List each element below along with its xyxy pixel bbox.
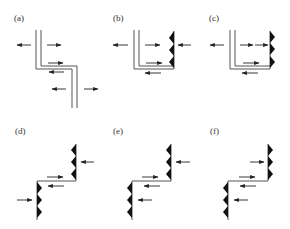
- shear-arrows: [17, 45, 98, 89]
- panel-label-f: (f): [210, 126, 219, 136]
- panel-d: (d): [15, 126, 94, 220]
- panel-label-e: (e): [113, 126, 123, 136]
- fault-step-diagram: (a) (b): [0, 0, 290, 229]
- panel-a: (a): [14, 13, 98, 108]
- step-boundary: [132, 144, 171, 220]
- sawtooth-teeth: [270, 31, 275, 68]
- panel-label-a: (a): [14, 13, 24, 23]
- panel-c: (c): [209, 13, 275, 73]
- panel-label-b: (b): [113, 13, 124, 23]
- panel-e: (e): [113, 126, 190, 220]
- panel-label-d: (d): [15, 126, 26, 136]
- panel-b: (b): [113, 13, 191, 73]
- double-line-boundary: [36, 30, 77, 108]
- step-boundary: [228, 144, 268, 220]
- sawtooth-teeth: [169, 31, 174, 68]
- panel-label-c: (c): [209, 13, 219, 23]
- panel-f: (f): [210, 126, 273, 220]
- step-boundary: [37, 144, 76, 220]
